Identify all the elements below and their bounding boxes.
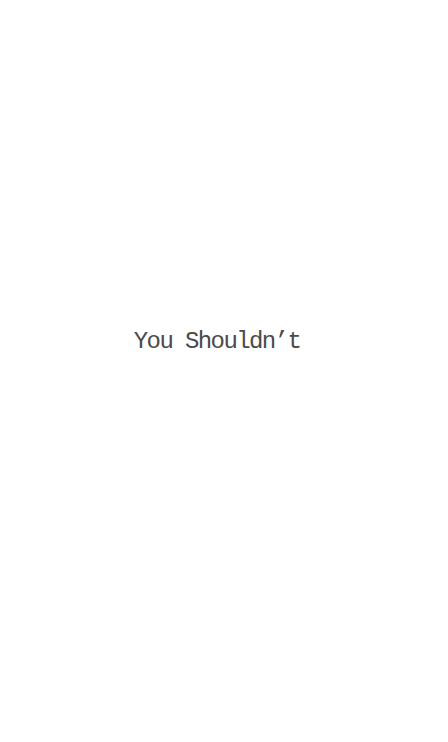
- page-canvas: You Shouldn’t: [0, 0, 448, 742]
- caption-text: You Shouldn’t: [0, 327, 434, 357]
